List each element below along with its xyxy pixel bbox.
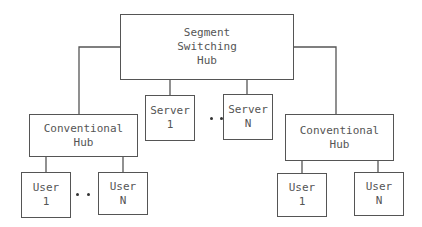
node-label-line: 1	[299, 195, 306, 209]
node-label-line: Segment	[184, 26, 230, 40]
edge-segment-hub-to-left-hub	[79, 47, 120, 114]
segment-switching-hub: Segment Switching Hub	[120, 14, 294, 80]
right-user-n: User N	[354, 172, 404, 216]
node-label-line: Server	[228, 103, 268, 117]
node-label-line: Hub	[330, 138, 350, 152]
node-label-line: Conventional	[300, 124, 379, 138]
edge-segment-hub-to-right-hub	[293, 47, 336, 114]
left-user-1: User 1	[21, 172, 71, 218]
server-1: Server 1	[145, 95, 195, 141]
node-label-line: Conventional	[44, 122, 123, 136]
node-label-line: Hub	[197, 54, 217, 68]
node-label-line: User	[366, 180, 393, 194]
ellipsis-dot	[210, 117, 213, 120]
node-label-line: 1	[43, 195, 50, 209]
left-user-n: User N	[98, 172, 148, 215]
node-label-line: Server	[150, 104, 190, 118]
node-label-line: User	[289, 181, 316, 195]
node-label-line: N	[376, 194, 383, 208]
node-label-line: User	[33, 181, 60, 195]
ellipsis-dot	[76, 193, 79, 196]
right-user-1: User 1	[277, 173, 327, 217]
ellipsis-dot	[87, 193, 90, 196]
left-conventional-hub: Conventional Hub	[29, 114, 138, 157]
node-label-line: 1	[167, 118, 174, 132]
node-label-line: User	[110, 180, 137, 194]
node-label-line: N	[120, 194, 127, 208]
node-label-line: Hub	[74, 136, 94, 150]
right-conventional-hub: Conventional Hub	[285, 114, 394, 161]
server-n: Server N	[223, 94, 273, 140]
node-label-line: Switching	[177, 40, 237, 54]
node-label-line: N	[245, 117, 252, 131]
